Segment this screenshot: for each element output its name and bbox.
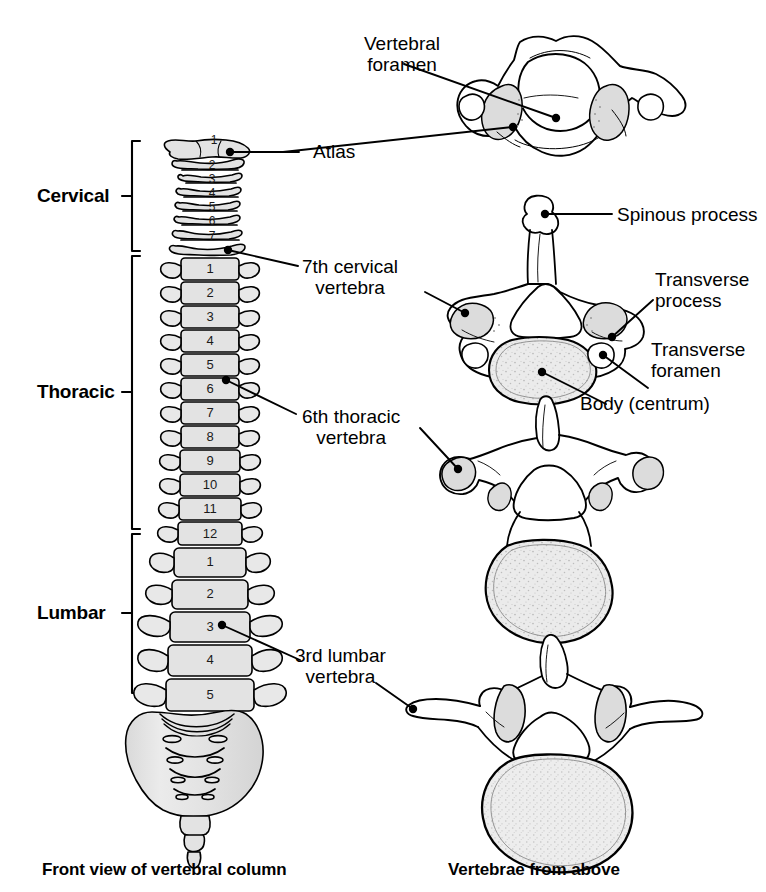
- vertebra-number-c2: 2: [204, 158, 220, 172]
- region-bracket-cervical: [122, 141, 140, 251]
- vertebra-number-t1: 1: [202, 261, 218, 276]
- dot-atlas-right: [509, 123, 517, 131]
- region-bracket-thoracic: [122, 256, 140, 529]
- vertebra-number-t7: 7: [202, 405, 218, 420]
- callout-transverse-process-line2: process: [655, 290, 749, 311]
- sacrum-coccyx: [126, 710, 263, 868]
- vertebra-number-t4: 4: [202, 333, 218, 348]
- callout-sixth-thoracic-line2: vertebra: [302, 427, 400, 448]
- vertebra-number-l5: 5: [202, 687, 218, 702]
- callout-transverse-process-line1: Transverse: [655, 269, 749, 290]
- vertebra-number-t8: 8: [202, 429, 218, 444]
- vertebra-number-t10: 10: [199, 477, 221, 492]
- dot-vertebral-foramen: [552, 114, 560, 122]
- callout-vertebral-foramen: Vertebral foramen: [364, 33, 440, 75]
- vertebra-number-c5: 5: [204, 200, 220, 214]
- vertebra-number-t3: 3: [202, 309, 218, 324]
- vertebra-number-c7: 7: [204, 229, 220, 243]
- callout-spinous-process: Spinous process: [617, 204, 757, 225]
- callout-seventh-cervical-vertebra: 7th cervical vertebra: [302, 256, 398, 298]
- vertebra-number-c6: 6: [204, 214, 220, 228]
- vertebra-number-l2: 2: [202, 586, 218, 601]
- vertebra-number-t12: 12: [199, 526, 221, 541]
- vertebra-number-t5: 5: [202, 357, 218, 372]
- region-label-cervical: Cervical: [37, 185, 109, 207]
- callout-body-centrum: Body (centrum): [580, 393, 710, 414]
- dot-c7-spine: [224, 246, 232, 254]
- callout-transverse-foramen: Transverse foramen: [651, 339, 745, 381]
- region-bracket-lumbar: [122, 534, 140, 693]
- callout-sixth-thoracic-vertebra: 6th thoracic vertebra: [302, 406, 400, 448]
- callout-seventh-cervical-line2: vertebra: [302, 277, 398, 298]
- callout-transverse-process: Transverse process: [655, 269, 749, 311]
- dot-c7-drawing: [461, 309, 469, 317]
- callout-atlas: Atlas: [313, 141, 355, 162]
- callout-transverse-foramen-line1: Transverse: [651, 339, 745, 360]
- callout-third-lumbar-line2: vertebra: [295, 666, 386, 687]
- dot-body-centrum: [538, 368, 546, 376]
- vertebra-number-c1: 1: [206, 133, 222, 147]
- vertebra-number-c4: 4: [204, 186, 220, 200]
- callout-sixth-thoracic-line1: 6th thoracic: [302, 406, 400, 427]
- region-label-thoracic: Thoracic: [37, 381, 115, 403]
- caption-front-view: Front view of vertebral column: [42, 860, 287, 880]
- callout-vertebral-foramen-line2: foramen: [364, 54, 440, 75]
- dot-t6-drawing: [454, 465, 462, 473]
- vertebra-number-l4: 4: [202, 652, 218, 667]
- vertebra-number-t2: 2: [202, 285, 218, 300]
- callout-seventh-cervical-line1: 7th cervical: [302, 256, 398, 277]
- dot-l3-drawing: [409, 705, 417, 713]
- caption-vertebrae-above: Vertebrae from above: [448, 860, 620, 880]
- callout-transverse-foramen-line2: foramen: [651, 360, 745, 381]
- callout-vertebral-foramen-line1: Vertebral: [364, 33, 440, 54]
- dot-l3-spine: [218, 621, 226, 629]
- vertebra-number-c3: 3: [204, 172, 220, 186]
- region-label-lumbar: Lumbar: [37, 602, 105, 624]
- vertebra-number-t9: 9: [202, 453, 218, 468]
- lumbar-vertebra-superior-view: [406, 635, 702, 873]
- dot-spinous-process: [541, 210, 549, 218]
- figure-root: Cervical Thoracic Lumbar Vertebral foram…: [0, 0, 766, 892]
- vertebra-number-t6: 6: [202, 381, 218, 396]
- dot-t6-spine: [222, 376, 230, 384]
- dot-transverse-process: [608, 333, 616, 341]
- dot-transverse-foramen: [599, 351, 607, 359]
- vertebra-number-t11: 11: [199, 501, 221, 516]
- callout-third-lumbar-vertebra: 3rd lumbar vertebra: [295, 645, 386, 687]
- callout-third-lumbar-line1: 3rd lumbar: [295, 645, 386, 666]
- dot-atlas-spine: [226, 148, 234, 156]
- vertebra-number-l3: 3: [202, 619, 218, 634]
- vertebra-number-l1: 1: [202, 554, 218, 569]
